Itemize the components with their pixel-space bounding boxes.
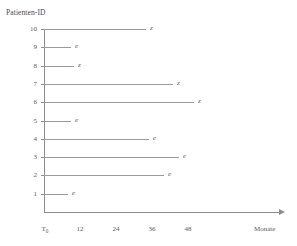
y-tick-label-1: 1: [21, 190, 37, 198]
y-tick-label-8: 8: [21, 62, 37, 70]
y-axis-title: Patienten-ID: [6, 8, 46, 17]
x-tick-label-24: 24: [113, 225, 120, 233]
event-marker: z: [150, 24, 153, 32]
event-marker: e: [75, 116, 78, 124]
event-marker: z: [78, 61, 81, 69]
patient-bar: [44, 84, 173, 85]
patient-bar: [44, 194, 68, 195]
patient-bar: [44, 29, 146, 30]
y-tick-label-4: 4: [21, 135, 37, 143]
y-tick-label-10: 10: [21, 25, 37, 33]
x-axis-arrow-icon: [279, 209, 285, 215]
swimmer-plot: Patienten-ID 10987654321 zezzzeeeee T0 1…: [0, 0, 297, 246]
x-tick-label-36: 36: [149, 225, 156, 233]
event-marker: e: [153, 134, 156, 142]
x-axis-line: [44, 212, 283, 213]
y-tick-label-6: 6: [21, 98, 37, 106]
event-marker: e: [72, 189, 75, 197]
patient-bar: [44, 121, 71, 122]
event-marker: z: [177, 79, 180, 87]
event-marker: e: [183, 152, 186, 160]
y-tick-label-5: 5: [21, 117, 37, 125]
y-tick-label-9: 9: [21, 43, 37, 51]
x-tick-label-12: 12: [77, 225, 84, 233]
y-tick-label-3: 3: [21, 153, 37, 161]
patient-bar: [44, 47, 71, 48]
patient-bar: [44, 139, 149, 140]
event-marker: z: [198, 97, 201, 105]
x-tick-label-t0: T0: [42, 225, 49, 234]
x-tick-t0-subscript: 0: [46, 228, 49, 234]
x-axis-unit-label: Monate: [254, 225, 275, 233]
patient-bar: [44, 66, 74, 67]
y-tick-label-2: 2: [21, 171, 37, 179]
event-marker: e: [168, 170, 171, 178]
event-marker: e: [75, 42, 78, 50]
patient-bar: [44, 175, 164, 176]
patient-bar: [44, 102, 194, 103]
patient-bar: [44, 157, 179, 158]
x-tick-label-48: 48: [185, 225, 192, 233]
y-tick-label-7: 7: [21, 80, 37, 88]
